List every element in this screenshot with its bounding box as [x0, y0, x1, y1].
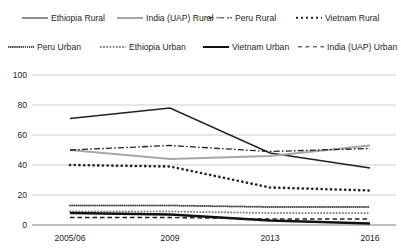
y-axis-tick-label: 0 [22, 220, 27, 230]
legend-label: Vietnam Rural [325, 13, 379, 23]
legend-item-india-uap-rural[interactable]: India (UAP) Rural [117, 13, 213, 23]
legend-item-india-uap-urban[interactable]: India (UAP) Urban [298, 42, 397, 52]
series-line-peru-urban [70, 206, 370, 208]
legend-label: Ethiopia Urban [129, 42, 186, 52]
chart-svg: 020406080100 2005/06200920132016 [0, 64, 401, 251]
y-axis-tick-labels: 020406080100 [13, 70, 28, 230]
legend-item-peru-urban[interactable]: Peru Urban [8, 42, 81, 52]
y-axis-tick-label: 100 [13, 70, 28, 80]
chart-legend: Ethiopia Rural India (UAP) Rural Peru Ru… [0, 0, 401, 64]
legend-item-vietnam-rural[interactable]: Vietnam Rural [296, 13, 379, 23]
x-axis-tick-label: 2005/06 [54, 233, 85, 243]
legend-item-vietnam-urban[interactable]: Vietnam Urban [203, 42, 289, 52]
legend-label: Peru Urban [37, 42, 81, 52]
legend-label: Ethiopia Rural [51, 13, 105, 23]
x-axis-tick-labels: 2005/06200920132016 [54, 233, 379, 243]
plot-area: 020406080100 2005/06200920132016 [0, 64, 401, 251]
y-axis-tick-label: 20 [17, 190, 27, 200]
series-line-ethiopia-rural [70, 108, 370, 168]
line-style-dotted-thick-icon [296, 13, 322, 23]
gridlines [32, 75, 396, 225]
line-style-dashed-icon [298, 42, 324, 52]
legend-label: India (UAP) Rural [146, 13, 213, 23]
legend-item-peru-rural[interactable]: Peru Rural [206, 13, 276, 23]
x-axis-tick-label: 2009 [160, 233, 179, 243]
line-style-solid-thick-icon [203, 42, 229, 52]
data-series-layer [70, 108, 370, 224]
line-style-solid-gray-icon [117, 13, 143, 23]
legend-item-ethiopia-rural[interactable]: Ethiopia Rural [22, 13, 105, 23]
legend-item-ethiopia-urban[interactable]: Ethiopia Urban [100, 42, 186, 52]
legend-label: Peru Rural [235, 13, 276, 23]
y-axis-tick-label: 60 [17, 130, 27, 140]
y-axis-tick-label: 40 [17, 160, 27, 170]
line-style-dotted-fine-icon [8, 42, 34, 52]
y-axis-tick-label: 80 [17, 100, 27, 110]
chart-container: Ethiopia Rural India (UAP) Rural Peru Ru… [0, 0, 401, 251]
x-axis-tick-label: 2013 [260, 233, 279, 243]
legend-label: India (UAP) Urban [327, 42, 397, 52]
series-line-vietnam-rural [70, 165, 370, 191]
line-style-solid-thin-icon [22, 13, 48, 23]
legend-label: Vietnam Urban [232, 42, 289, 52]
line-style-dash-dot-icon [206, 13, 232, 23]
line-style-dotted-medium-icon [100, 42, 126, 52]
x-axis-tick-label: 2016 [360, 233, 379, 243]
